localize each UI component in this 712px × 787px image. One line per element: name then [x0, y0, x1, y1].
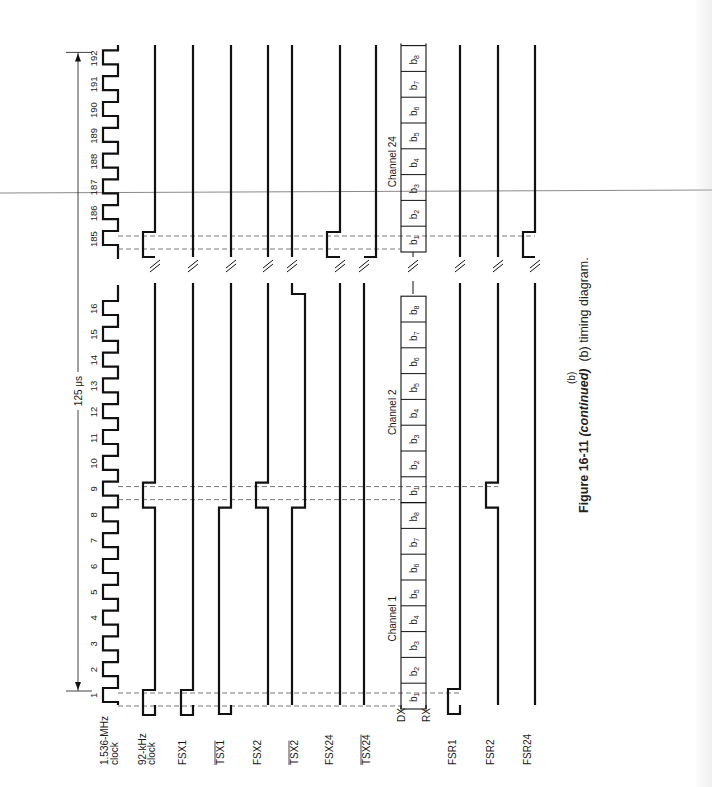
fsr24-break-mark	[530, 264, 540, 272]
clock-tick-label: 189	[88, 128, 99, 144]
fsr2-trace	[486, 283, 498, 705]
channel-24-bit-label: b5	[408, 132, 420, 142]
period-arrowhead	[75, 53, 81, 61]
channel-2-bit-label: b2	[408, 460, 420, 470]
channel-1-bit-label: b5	[408, 589, 420, 599]
clock-tick-label: 9	[88, 486, 99, 491]
channel-1-bit-label: b8	[408, 512, 420, 522]
clock-tick-label: 4	[88, 615, 99, 620]
clock-1536-trace-upper	[103, 45, 118, 259]
fsx1-trace	[181, 283, 193, 715]
clock-tick-label: 191	[88, 76, 99, 92]
clock-tick-label: 192	[88, 51, 99, 67]
channel-1-label: Channel 1	[387, 595, 398, 641]
sublabel-b: (b)	[566, 372, 577, 384]
tsx1-trace	[219, 283, 231, 714]
fsr24-trace-upper	[523, 45, 535, 257]
channel-24-bit-label: b6	[408, 107, 420, 117]
clock-tick-label: 2	[88, 667, 99, 672]
tsx24-break-mark	[359, 264, 369, 272]
channel-1-bit-label: b1	[408, 693, 420, 703]
signal-label-tsx24: TSX24	[361, 734, 372, 765]
figure-number: Figure 16-11	[577, 440, 591, 513]
signal-label-fsr2: FSR2	[485, 739, 496, 765]
channel-24-bit-label: b7	[408, 81, 420, 91]
clock-tick-label: 8	[88, 512, 99, 517]
clock-tick-label: 1	[88, 693, 99, 698]
period-arrowhead	[75, 682, 81, 690]
channel-2-bit-label: b1	[408, 486, 420, 496]
figure-continued: (continued)	[577, 369, 591, 437]
fsx2-break-mark	[263, 264, 273, 272]
signal-label-tsx1: TSX1	[215, 740, 226, 765]
clock-tick-label: 11	[88, 433, 99, 443]
timing-diagram: 1234567891011121314151618518618718818919…	[0, 0, 712, 787]
dx-break-mark	[408, 264, 418, 272]
tsx24-break-mark	[359, 260, 369, 268]
clock-tick-label: 6	[88, 564, 99, 569]
channel-1-bit-label: b6	[408, 564, 420, 574]
channel-24-label: Channel 24	[387, 136, 398, 188]
signal-label-rx: RX	[421, 708, 432, 722]
fsx24-trace-upper	[327, 45, 340, 257]
channel-1-bit-label: b7	[408, 538, 420, 548]
channel-2-bit-label: b5	[408, 383, 420, 393]
clock-tick-label: 3	[88, 641, 99, 646]
clock-1536-trace	[103, 285, 118, 705]
fsr2-break-mark	[493, 264, 503, 272]
clock-tick-label: 10	[88, 458, 99, 469]
channel-2-bit-label: b4	[408, 409, 420, 419]
fsr1-break-mark	[455, 260, 465, 268]
fsx1-break-mark	[188, 260, 198, 268]
channel-24-bit-label: b8	[408, 55, 420, 65]
signal-label-clk1536-line2: clock	[109, 741, 120, 765]
fsr1-break-mark	[455, 264, 465, 272]
fsr2-break-mark	[493, 260, 503, 268]
clock-92k-trace-upper	[143, 45, 155, 257]
signal-label-fsx2: FSX2	[252, 740, 263, 765]
clock-tick-label: 187	[88, 180, 99, 196]
channel-2-bit-label: b6	[408, 357, 420, 367]
fsr24-break-mark	[530, 260, 540, 268]
dx-break-mark	[408, 260, 418, 268]
channel-1-bit-label: b2	[408, 667, 420, 677]
clock-92k-trace	[143, 283, 155, 715]
clock-tick-label: 7	[88, 538, 99, 543]
clock-tick-label: 14	[88, 355, 99, 366]
clock-tick-label: 16	[88, 303, 99, 314]
fsx24-break-mark	[335, 264, 345, 272]
signal-label-clk92-line2: clock	[146, 741, 157, 765]
channel-2-label: Channel 2	[387, 389, 398, 435]
fsx1-break-mark	[188, 264, 198, 272]
signal-label-fsx24: FSX24	[324, 734, 335, 765]
fsx2-trace	[256, 283, 268, 705]
fsr1-trace	[448, 283, 460, 714]
clock-tick-label: 188	[88, 154, 99, 170]
signal-label-tsx2: TSX2	[289, 740, 300, 765]
clock-tick-label: 13	[88, 381, 99, 392]
signal-label-fsr1: FSR1	[447, 739, 458, 765]
channel-1-bit-label: b3	[408, 641, 420, 651]
channel-2-bit-label: b7	[408, 331, 420, 341]
tsx2-break-mark	[287, 264, 297, 272]
tsx2-trace	[292, 283, 305, 705]
tsx2-break-mark	[287, 260, 297, 268]
clock-92k-break-mark	[150, 260, 160, 268]
channel-24-bit-label: b4	[408, 158, 420, 168]
tsx1-break-mark	[226, 264, 236, 272]
clock-tick-label: 186	[88, 205, 99, 221]
channel-2-bit-label: b3	[408, 435, 420, 445]
scan-edge-shade	[694, 0, 712, 787]
clock-tick-label: 15	[88, 329, 99, 340]
channel-1-bit-label: b4	[408, 615, 420, 625]
figure-caption: Figure 16-11 (continued) (b) timing diag…	[577, 257, 591, 513]
tsx1-break-mark	[226, 260, 236, 268]
tsx24-trace-upper	[364, 45, 376, 257]
channel-24-bit-label: b1	[408, 236, 420, 246]
period-label: 125 μs	[73, 376, 84, 406]
channel-24-bit-label: b3	[408, 184, 420, 194]
clock-tick-label: 5	[88, 590, 99, 595]
clock-tick-label: 185	[88, 231, 99, 247]
fsx24-break-mark	[335, 260, 345, 268]
signal-label-fsr24: FSR24	[522, 733, 533, 765]
